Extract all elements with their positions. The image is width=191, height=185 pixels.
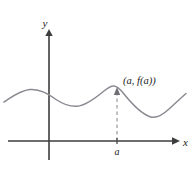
point-label: (a, f(a)) [123, 75, 156, 87]
function-graph-figure: y x a (a, f(a)) [0, 0, 191, 185]
y-axis-arrow-icon [45, 29, 52, 36]
x-axis-label: x [182, 136, 188, 148]
function-curve [4, 86, 186, 117]
y-axis-label: y [42, 17, 48, 29]
x-axis-arrow-icon [172, 137, 180, 144]
x-tick-label-a: a [115, 146, 120, 157]
